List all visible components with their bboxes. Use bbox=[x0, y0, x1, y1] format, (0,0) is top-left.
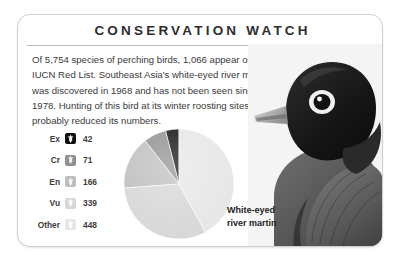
bird-glyph-icon bbox=[66, 220, 75, 230]
bird-glyph-icon bbox=[66, 198, 75, 208]
conservation-watch-card: CONSERVATION WATCH Of 5,754 species of p… bbox=[17, 14, 383, 247]
legend-row: Other 448 bbox=[20, 214, 118, 236]
legend-item-label: Ex bbox=[20, 134, 65, 144]
pie-chart-svg bbox=[120, 125, 238, 243]
legend-swatch-ex bbox=[65, 133, 76, 144]
bird-eye-highlight bbox=[317, 97, 322, 102]
legend-swatch-other bbox=[65, 219, 76, 230]
legend-row: Ex 42 bbox=[20, 128, 118, 150]
photo-caption-line2: river martin bbox=[227, 217, 307, 230]
legend-swatch-vu bbox=[65, 198, 76, 209]
pie-chart bbox=[120, 125, 238, 243]
bird-glyph-icon bbox=[66, 134, 75, 144]
legend-row: En 166 bbox=[20, 171, 118, 193]
legend-item-value: 448 bbox=[76, 220, 97, 230]
body-paragraph: Of 5,754 species of perching birds, 1,06… bbox=[32, 52, 270, 128]
legend-swatch-cr bbox=[65, 155, 76, 166]
legend-item-value: 71 bbox=[76, 155, 92, 165]
photo-caption-line1: White-eyed bbox=[227, 204, 307, 217]
legend-item-label: En bbox=[20, 177, 65, 187]
bird-glyph-icon bbox=[66, 155, 75, 165]
bird-glyph-icon bbox=[66, 177, 75, 187]
legend-item-label: Cr bbox=[20, 155, 65, 165]
legend: Ex 42 Cr 71 En 166 bbox=[20, 128, 118, 236]
legend-swatch-en bbox=[65, 176, 76, 187]
legend-item-value: 339 bbox=[76, 198, 97, 208]
legend-item-value: 42 bbox=[76, 134, 92, 144]
bird-eye bbox=[314, 94, 331, 110]
legend-item-label: Other bbox=[20, 220, 65, 230]
pie-sheen bbox=[124, 129, 234, 239]
legend-row: Vu 339 bbox=[20, 193, 118, 215]
legend-item-value: 166 bbox=[76, 177, 97, 187]
legend-item-label: Vu bbox=[20, 198, 65, 208]
photo-caption: White-eyed river martin bbox=[227, 204, 307, 229]
legend-row: Cr 71 bbox=[20, 150, 118, 172]
page-title: CONSERVATION WATCH bbox=[18, 23, 383, 38]
